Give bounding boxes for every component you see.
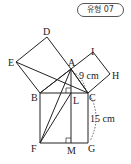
- label-I: I: [91, 46, 94, 57]
- pythagoras-diagram: D E A I H B C L F M G 9 cm 15 cm: [0, 0, 131, 164]
- right-angle-L: [66, 88, 71, 93]
- segment-AF: [40, 69, 71, 143]
- label-M: M: [67, 145, 76, 156]
- label-A: A: [68, 57, 76, 68]
- label-G: G: [88, 143, 95, 154]
- right-angle-M: [66, 138, 71, 143]
- label-E: E: [8, 57, 14, 68]
- square-BCGF: [40, 93, 88, 143]
- label-F: F: [31, 143, 37, 154]
- measure-AC: 9 cm: [79, 70, 99, 81]
- measure-CG: 15 cm: [90, 113, 115, 124]
- square-ABED: [16, 37, 71, 93]
- label-L: L: [73, 95, 79, 106]
- segment-FL: [40, 93, 71, 143]
- label-H: H: [112, 70, 119, 81]
- label-C: C: [89, 92, 96, 103]
- label-B: B: [31, 92, 38, 103]
- label-D: D: [43, 26, 50, 37]
